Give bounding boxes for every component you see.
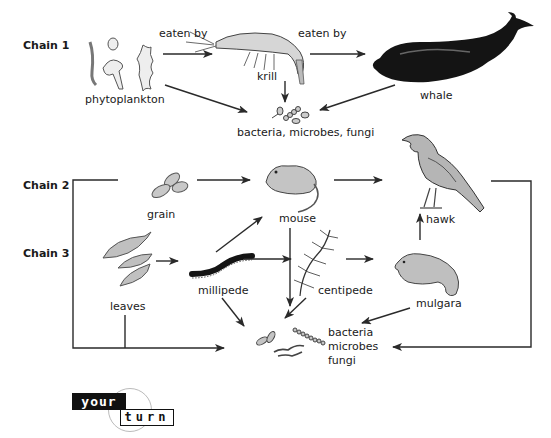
decomposers-bottom-label-bacteria: bacteria (328, 326, 373, 339)
mulgara-label: mulgara (416, 297, 462, 310)
phytoplankton-icon (90, 38, 153, 91)
grain-icon (150, 170, 189, 200)
centipede-label: centipede (318, 284, 373, 297)
mulgara-icon (395, 254, 459, 296)
phytoplankton-label: phytoplankton (85, 93, 165, 106)
grain-label: grain (147, 208, 175, 221)
hawk-label: hawk (426, 213, 455, 226)
leaves-label: leaves (110, 300, 146, 313)
your-turn-badge: your turn (72, 388, 182, 432)
decomposers-chain1-icon (272, 107, 309, 124)
decomposers-bottom-icon (255, 328, 325, 356)
eaten-by-label-2: eaten by (298, 27, 347, 40)
krill-label: krill (257, 70, 277, 83)
leaves-icon (103, 232, 152, 286)
eaten-by-label-1: eaten by (159, 27, 208, 40)
mouse-label: mouse (279, 212, 316, 225)
whale-label: whale (420, 89, 453, 102)
millipede-label: millipede (198, 284, 248, 297)
chain-2-label: Chain 2 (23, 179, 69, 192)
badge-your-text: your (72, 393, 126, 410)
hawk-icon (402, 135, 484, 212)
whale-icon (373, 12, 534, 82)
badge-turn-text: turn (120, 409, 174, 426)
chain1-arrows (163, 54, 395, 112)
mouse-icon (266, 166, 318, 212)
food-web-diagram (0, 0, 551, 438)
millipede-icon (192, 256, 252, 278)
decomposers-bottom-label-microbes: microbes (328, 340, 378, 353)
decomposers-bottom-label-fungi: fungi (328, 354, 356, 367)
chain-1-label: Chain 1 (23, 39, 69, 52)
decomposers-chain1-label: bacteria, microbes, fungi (237, 126, 374, 139)
chain-3-label: Chain 3 (23, 247, 69, 260)
